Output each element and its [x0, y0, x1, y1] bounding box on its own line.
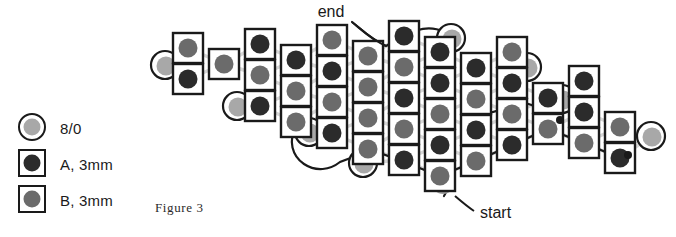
- bead-cell-B: [353, 134, 383, 164]
- thread-knot: [624, 151, 632, 159]
- bead-cell-A: [533, 83, 563, 113]
- bead-cell-B: [353, 103, 383, 133]
- bead-cell-B: [425, 161, 455, 191]
- bead-cell-B: [245, 60, 275, 90]
- bead-cell-B: [569, 128, 599, 158]
- bead-cell-A: [173, 64, 203, 94]
- bead-cell-B: [281, 107, 311, 137]
- bead-cell-B: [281, 76, 311, 106]
- bead-cell-A: [461, 115, 491, 145]
- bead-cell-A: [389, 83, 419, 113]
- bead-cell-A: [497, 130, 527, 160]
- bead-cell-A: [245, 29, 275, 59]
- bead-cell-B: [425, 99, 455, 129]
- bead-cell-B: [317, 25, 347, 55]
- start-label: start: [480, 204, 512, 221]
- bead-cell-A: [317, 56, 347, 86]
- bead-cell-A: [569, 66, 599, 96]
- bead-cell-A: [425, 130, 455, 160]
- figure-page: 8/0 A, 3mm B, 3mm Figure 3: [0, 0, 676, 237]
- bead-cell-B: [353, 72, 383, 102]
- bead-cell-B: [389, 52, 419, 82]
- bead-cell-A: [461, 53, 491, 83]
- bead-cell-B: [497, 37, 527, 67]
- beading-pattern-diagram: end start: [0, 0, 676, 237]
- bead-cell-A: [389, 145, 419, 175]
- seed-bead: [637, 122, 665, 150]
- bead-cell-B: [317, 87, 347, 117]
- bead-cell-B: [461, 146, 491, 176]
- bead-cell-A: [281, 45, 311, 75]
- bead-cell-A: [497, 68, 527, 98]
- start-leader-line: [455, 196, 474, 211]
- bead-cell-A: [569, 97, 599, 127]
- bead-cell-A: [425, 68, 455, 98]
- bead-cell-A: [425, 37, 455, 67]
- bead-cell-B: [353, 41, 383, 71]
- bead-cell-B: [173, 33, 203, 63]
- bead-cell-B: [461, 84, 491, 114]
- bead-cell-A: [389, 21, 419, 51]
- bead-cell-B: [605, 112, 635, 142]
- bead-cell-B: [497, 99, 527, 129]
- end-label: end: [318, 3, 345, 20]
- bead-cell-A: [245, 91, 275, 121]
- thread-knot: [556, 116, 564, 124]
- bead-cell-A: [317, 118, 347, 148]
- bead-cell-B: [389, 114, 419, 144]
- bead-cell-B: [209, 49, 239, 79]
